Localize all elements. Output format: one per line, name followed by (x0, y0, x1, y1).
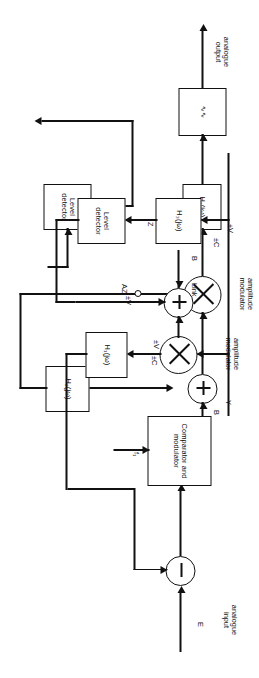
receiver-level-detector-label: Level detector (59, 185, 75, 229)
wire-az-to-transmitter-sum-arrow (158, 298, 165, 306)
transmitter-h3-filter-label: H₃(jω) (174, 210, 182, 231)
output-wire (201, 30, 203, 88)
transmitter-modulator-gain-label: ±C (149, 356, 157, 365)
difference-minus-sign (180, 563, 182, 577)
wire-rail-to-transmitter-mod-arrow (196, 350, 203, 358)
output-arrowhead (199, 24, 207, 31)
transmitter-h3-output-label: Z (145, 222, 153, 227)
wire-h1-to-lpf (201, 134, 203, 184)
wire-leveldet-to-az-v (55, 219, 79, 221)
transmitter-h1-filter-box: H₁(jω) (85, 332, 127, 378)
wire-input-to-diff (179, 592, 181, 652)
clock-frequency-label: f₁ (131, 452, 139, 457)
wire-b-to-transmitter-sum-arrow (175, 281, 183, 288)
lowpass-filter-symbol: ∿∿ (198, 106, 206, 119)
comparator-and-modulator-box: Comparator and modulator (147, 416, 211, 486)
transmitter-rail (227, 219, 229, 355)
wire-transmitter-h1-feedback-riser (67, 488, 135, 490)
wire-sum-to-receiver-mod (201, 312, 203, 374)
wire-h2-to-receiver-sum-arrow (166, 384, 173, 392)
wire-rail-to-h3-arrow (200, 216, 207, 224)
analogue-output-label: analogue output (213, 24, 229, 80)
wire-az-riser (55, 301, 75, 303)
wire-link-to-receiver-mod (19, 293, 185, 295)
analogue-input-signal-label: E (195, 622, 203, 627)
wire-az-to-transmitter-sum-v (75, 301, 165, 303)
wire-h2-to-receiver-sum (89, 387, 167, 389)
receiver-sum-b-label: B (211, 410, 219, 415)
analogue-input-label: analogue input (221, 592, 237, 648)
wire-leveldet-feedback-v (41, 120, 133, 122)
wire-h1-to-lpf-arrow (199, 134, 207, 141)
wire-diff-to-comparator (179, 490, 181, 556)
transmitter-level-detector-box: Level detector (77, 198, 125, 244)
wire-h1fb-to-diff-arrow (160, 566, 167, 574)
wire-h2out-riser (47, 266, 68, 268)
transmitter-h3-filter-box: H₃(jω) (155, 198, 201, 244)
wire-h1fb-to-diff-h (133, 490, 135, 570)
transmitter-sum-plus-v (172, 301, 186, 303)
wire-b-to-receiver-sum-arrow (199, 402, 207, 409)
wire-input-to-diff-arrow (177, 586, 185, 593)
wire-clock-to-comparator-arrow (142, 446, 149, 454)
wire-leveldet-to-az-h (55, 219, 57, 303)
receiver-amplitude-modulator-label: amplitude modulator (237, 266, 253, 322)
diagram-canvas: analogue output ∿∿ H₁(jω) ±C amplitude m… (0, 0, 259, 678)
block-diagram: analogue output ∿∿ H₁(jω) ±C amplitude m… (0, 0, 259, 678)
wire-leveldet-out-h (131, 120, 133, 207)
az-feedback-label: AZ (119, 284, 127, 293)
wire-h2out-to-leveldet-arrow (64, 228, 72, 235)
transmitter-h1-filter-label: H₁(jω) (102, 345, 110, 366)
link-node (134, 290, 141, 297)
link-trunk-transmitter-side (227, 153, 229, 220)
wire-sum-to-receiver-mod-arrow (199, 312, 207, 319)
receiver-sum-plus-v (196, 387, 210, 389)
wire-transmitter-h1-out (65, 353, 87, 355)
transmitter-sum-b-label: B (189, 256, 197, 261)
transmitter-level-detector-label: Level detector (93, 199, 109, 243)
lowpass-filter-box: ∿∿ (178, 88, 226, 136)
wire-transmitter-h1-feedback (65, 353, 67, 490)
comparator-and-modulator-label: Comparator and modulator (171, 417, 187, 485)
wire-leveldet-feedback-arrow (34, 117, 41, 125)
transmitter-mod-level-label: ±V (151, 340, 159, 349)
wire-modnode-to-h2-h (19, 293, 21, 389)
receiver-modulator-gain-label: ±C (211, 238, 219, 247)
wire-mod-to-h1 (201, 228, 203, 276)
wire-transmitter-sum-to-mod-arrow (175, 316, 183, 323)
wire-modnode-to-h2-v (19, 387, 47, 389)
